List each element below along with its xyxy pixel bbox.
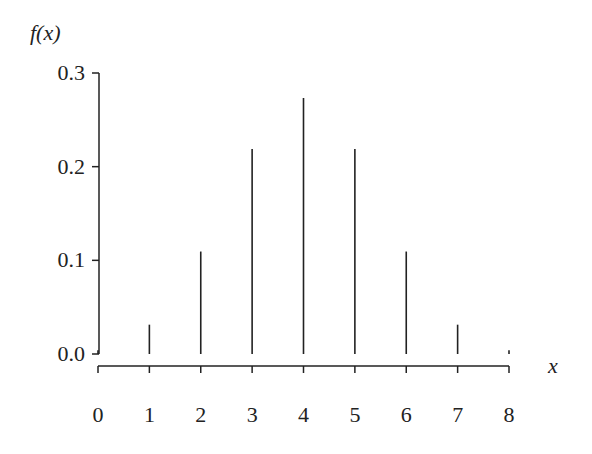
y-tick-label: 0.1	[58, 247, 86, 272]
x-tick-label: 3	[247, 402, 258, 427]
x-axis: 012345678	[93, 366, 515, 427]
x-tick-label: 8	[504, 402, 515, 427]
x-tick-label: 0	[93, 402, 104, 427]
y-tick-label: 0.3	[58, 60, 86, 85]
stem-chart: 0.00.10.20.3 012345678 f(x) x	[0, 0, 592, 454]
x-tick-label: 2	[195, 402, 206, 427]
x-tick-label: 7	[452, 402, 463, 427]
x-tick-label: 6	[401, 402, 412, 427]
x-axis-title: x	[547, 353, 558, 378]
x-tick-label: 5	[349, 402, 360, 427]
y-tick-label: 0.2	[58, 154, 86, 179]
x-tick-label: 1	[144, 402, 155, 427]
y-axis-title: f(x)	[30, 20, 61, 45]
y-tick-label: 0.0	[58, 341, 86, 366]
stems	[98, 98, 509, 354]
x-tick-label: 4	[298, 402, 309, 427]
y-axis: 0.00.10.20.3	[58, 60, 100, 366]
